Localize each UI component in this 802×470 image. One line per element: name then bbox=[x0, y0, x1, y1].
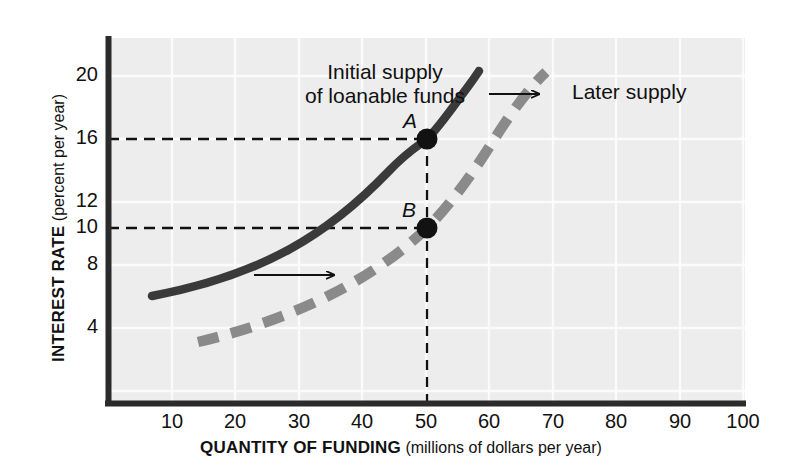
y-axis-title-strong: INTEREST RATE bbox=[49, 226, 68, 362]
x-tick-100: 100 bbox=[713, 411, 773, 431]
x-tick-90: 90 bbox=[650, 411, 710, 431]
x-tick-10: 10 bbox=[142, 411, 202, 431]
marker-point-b bbox=[417, 218, 438, 239]
initial-supply-annotation: Initial supply of loanable funds bbox=[305, 60, 465, 108]
later-supply-annotation: Later supply bbox=[572, 80, 686, 104]
x-axis-title-strong: QUANTITY OF FUNDING bbox=[200, 438, 401, 457]
x-axis-tick-labels: 10 20 30 40 50 60 70 80 90 100 bbox=[0, 411, 802, 441]
x-tick-50: 50 bbox=[396, 411, 456, 431]
y-axis-title-soft: (percent per year) bbox=[50, 94, 67, 221]
initial-supply-annotation-line2: of loanable funds bbox=[305, 84, 465, 108]
x-tick-40: 40 bbox=[332, 411, 392, 431]
x-tick-30: 30 bbox=[269, 411, 329, 431]
x-tick-70: 70 bbox=[523, 411, 583, 431]
y-axis-title: INTEREST RATE (percent per year) bbox=[49, 48, 75, 408]
initial-supply-annotation-line1: Initial supply bbox=[305, 60, 465, 84]
point-b-label: B bbox=[402, 199, 416, 220]
point-a-label: A bbox=[403, 110, 417, 131]
x-axis-title: QUANTITY OF FUNDING (millions of dollars… bbox=[0, 438, 802, 458]
x-tick-20: 20 bbox=[205, 411, 265, 431]
marker-point-a bbox=[417, 129, 438, 150]
loanable-funds-supply-chart: 20 16 12 10 8 4 INTEREST RATE (percent p… bbox=[0, 0, 802, 470]
x-axis-title-soft: (millions of dollars per year) bbox=[405, 439, 602, 456]
x-tick-60: 60 bbox=[459, 411, 519, 431]
x-tick-80: 80 bbox=[586, 411, 646, 431]
